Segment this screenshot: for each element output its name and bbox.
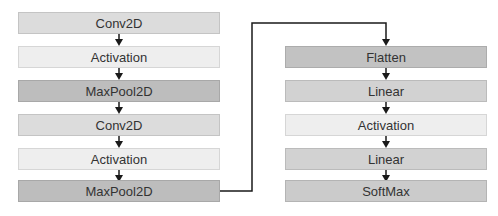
layer-label: Flatten: [366, 50, 406, 65]
layer-activation-1: Activation: [18, 46, 220, 68]
layer-label: MaxPool2D: [85, 184, 152, 199]
layer-softmax: SoftMax: [285, 180, 487, 202]
layer-activation-3: Activation: [285, 114, 487, 136]
layer-conv2d-2: Conv2D: [18, 114, 220, 136]
layer-maxpool2d-1: MaxPool2D: [18, 80, 220, 102]
layer-label: Linear: [368, 152, 404, 167]
layer-label: MaxPool2D: [85, 84, 152, 99]
layer-label: Conv2D: [96, 118, 143, 133]
layer-activation-2: Activation: [18, 148, 220, 170]
layer-label: Activation: [91, 152, 147, 167]
layer-flatten: Flatten: [285, 46, 487, 68]
layer-label: Activation: [91, 50, 147, 65]
layer-label: Activation: [358, 118, 414, 133]
layer-label: Linear: [368, 84, 404, 99]
layer-linear-2: Linear: [285, 148, 487, 170]
layer-linear-1: Linear: [285, 80, 487, 102]
layer-label: SoftMax: [362, 184, 410, 199]
layer-label: Conv2D: [96, 16, 143, 31]
layer-conv2d-1: Conv2D: [18, 12, 220, 34]
layer-maxpool2d-2: MaxPool2D: [18, 180, 220, 202]
